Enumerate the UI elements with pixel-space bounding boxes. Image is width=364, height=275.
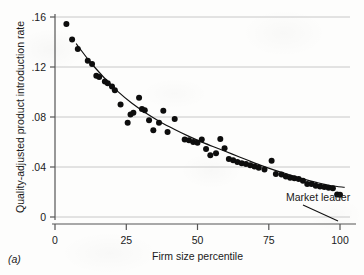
data-point (273, 171, 279, 177)
data-point (125, 120, 131, 126)
data-point (199, 137, 205, 143)
data-point (172, 116, 178, 122)
fitted-curve (76, 44, 344, 187)
data-point (156, 120, 162, 126)
x-tick-label-75: 75 (263, 234, 275, 246)
data-point (75, 46, 81, 52)
y-tick-labels: .16 .12 .08 .04 0 (31, 11, 46, 223)
y-tick-label-0.08: .08 (31, 111, 46, 123)
gridlines (55, 17, 350, 217)
y-tick-label-0.12: .12 (31, 61, 46, 73)
data-point (165, 129, 171, 135)
data-point (160, 108, 166, 114)
panel-label: (a) (8, 253, 21, 265)
data-point (118, 102, 124, 108)
data-point (142, 107, 148, 113)
data-point (96, 74, 102, 80)
data-point (130, 110, 136, 116)
data-point (222, 145, 228, 151)
market-leader-arrow (303, 205, 338, 221)
figure-panel-a: .16 .12 .08 .04 0 0 25 50 75 100 Firm si… (0, 0, 364, 275)
data-point (261, 167, 267, 173)
x-tick-label-25: 25 (120, 234, 132, 246)
x-tick-label-0: 0 (52, 234, 58, 246)
data-point (207, 152, 213, 158)
data-point (203, 146, 209, 152)
scatter-plot: .16 .12 .08 .04 0 0 25 50 75 100 Firm si… (0, 0, 364, 275)
x-tick-label-50: 50 (192, 234, 204, 246)
x-axis-title: Firm size percentile (152, 250, 243, 262)
data-point (150, 127, 156, 133)
y-tick-label-0.16: .16 (31, 11, 46, 23)
y-tick-label-0: 0 (40, 211, 46, 223)
market-leader-label: Market leader (286, 191, 351, 203)
data-point (63, 21, 69, 27)
x-tick-labels: 0 25 50 75 100 (52, 234, 349, 246)
y-tick-label-0.04: .04 (31, 161, 46, 173)
data-point (136, 95, 142, 101)
data-point (213, 150, 219, 156)
y-axis-title: Quality-adjusted product introduction ra… (14, 21, 26, 213)
data-point (256, 165, 262, 171)
data-point (69, 37, 75, 43)
data-point (217, 136, 223, 142)
data-points (63, 21, 343, 198)
data-point (146, 117, 152, 123)
x-tick-label-100: 100 (331, 234, 349, 246)
data-point (269, 158, 275, 164)
data-point (89, 61, 95, 67)
data-point (112, 87, 118, 93)
